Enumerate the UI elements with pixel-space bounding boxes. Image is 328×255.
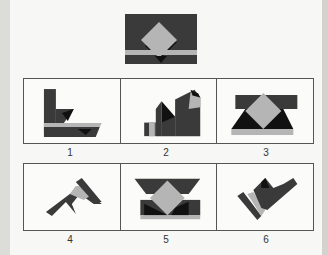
option-3-figure — [217, 79, 313, 143]
target-figure — [125, 14, 197, 64]
option-5-label: 5 — [156, 234, 176, 245]
page-gutter-right — [322, 0, 328, 255]
option-5-figure — [121, 164, 217, 230]
option-4-figure — [24, 164, 120, 230]
option-1[interactable] — [24, 79, 121, 143]
option-2[interactable] — [121, 79, 218, 143]
option-4[interactable] — [24, 164, 121, 230]
option-4-label: 4 — [60, 234, 80, 245]
option-6-label: 6 — [256, 234, 276, 245]
options-row-1 — [23, 78, 314, 144]
option-6-figure — [217, 164, 313, 230]
option-3-label: 3 — [256, 147, 276, 158]
option-2-figure — [121, 79, 217, 143]
option-2-label: 2 — [156, 147, 176, 158]
option-1-label: 1 — [60, 147, 80, 158]
option-1-figure — [24, 79, 120, 143]
options-row-2 — [23, 163, 314, 231]
option-6[interactable] — [217, 164, 313, 230]
option-3[interactable] — [217, 79, 313, 143]
page-gutter-left — [0, 0, 10, 255]
option-5[interactable] — [121, 164, 218, 230]
